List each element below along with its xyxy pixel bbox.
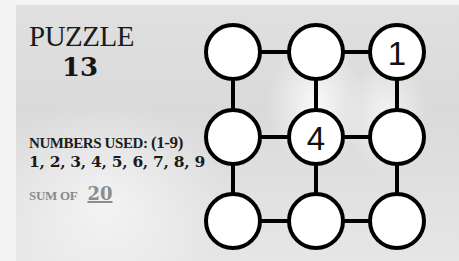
- grid-cell-r3c1[interactable]: [206, 194, 260, 248]
- grid-cell-r2c3[interactable]: [370, 110, 424, 164]
- grid-cell-r3c3[interactable]: [370, 194, 424, 248]
- cell-value-r2c2: 4: [307, 120, 325, 157]
- cell-value-r1c3: 1: [388, 35, 406, 72]
- grid-cell-r3c2[interactable]: [289, 194, 343, 248]
- grid-cell-r1c2[interactable]: [289, 25, 343, 79]
- puzzle-grid: 1 4: [0, 0, 459, 261]
- grid-cell-r2c1[interactable]: [206, 110, 260, 164]
- grid-cell-r1c1[interactable]: [206, 25, 260, 79]
